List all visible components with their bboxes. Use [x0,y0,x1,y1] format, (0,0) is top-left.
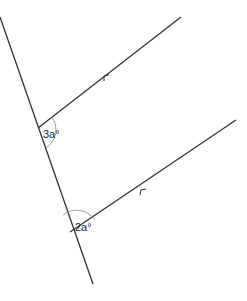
upper-angle-label: 3a° [43,128,60,140]
lower-parallel-line [70,120,236,232]
upper-parallel-arrow-icon [104,75,109,81]
upper-parallel-line [38,17,181,128]
diagram-svg: 3a° 2a° [0,0,247,301]
transversal-line [0,17,93,284]
lower-parallel-arrow-icon [140,189,146,195]
diagram-canvas: 3a° 2a° [0,0,247,301]
lower-angle-label: 2a° [75,221,92,233]
